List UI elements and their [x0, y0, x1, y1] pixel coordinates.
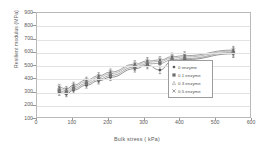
x-tick-mark [108, 118, 109, 121]
y-tick-label: 800 [13, 23, 33, 28]
gridline [37, 79, 250, 80]
y-tick-mark [32, 25, 36, 26]
y-tick-mark [32, 65, 36, 66]
x-tick-mark [215, 118, 216, 121]
data-point-diamond [158, 68, 161, 71]
y-tick-label: 900 [13, 10, 33, 15]
legend-item-0[interactable]: 0 enzyme [171, 63, 210, 71]
y-tick-label: 400 [13, 76, 33, 81]
x-tick-mark [144, 118, 145, 121]
legend-label: 0.5 enzyme [177, 89, 201, 94]
gridline [37, 93, 250, 94]
y-tick-label: 700 [13, 36, 33, 41]
x-tick-mark [36, 118, 37, 121]
y-tick-label: 300 [13, 89, 33, 94]
legend-item-2[interactable]: 0.3 enzyme [171, 79, 210, 87]
plot-area [36, 12, 251, 118]
legend-label: 0 enzyme [177, 65, 197, 70]
y-tick-mark [32, 39, 36, 40]
y-tick-mark [32, 105, 36, 106]
legend-label: 0.3 enzyme [177, 81, 201, 86]
y-tick-label: 500 [13, 63, 33, 68]
gridline [37, 40, 250, 41]
data-point-diamond [172, 65, 175, 68]
legend-item-3[interactable]: 0.5 enzyme [171, 87, 210, 95]
gridline [37, 66, 250, 67]
y-tick-mark [32, 12, 36, 13]
legend-label: 0.1 enzyme [177, 73, 201, 78]
gridline [37, 53, 250, 54]
gridline [37, 26, 250, 27]
y-tick-mark [32, 52, 36, 53]
x-tick-mark [251, 118, 252, 121]
data-point-square [172, 73, 175, 76]
legend-item-1[interactable]: 0.1 enzyme [171, 71, 210, 79]
data-point-triangle [172, 81, 175, 84]
data-point-cross [172, 89, 175, 92]
y-tick-label: 600 [13, 49, 33, 54]
y-tick-mark [32, 78, 36, 79]
x-tick-mark [72, 118, 73, 121]
gridline [37, 106, 250, 107]
x-axis-title: Bulk stress ( kPa) [0, 136, 274, 142]
x-tick-mark [179, 118, 180, 121]
chart-figure: Resilient modulus (MPa) 1002003004005006… [0, 0, 274, 153]
y-tick-mark [32, 92, 36, 93]
legend: 0 enzyme0.1 enzyme0.3 enzyme0.5 enzyme [168, 60, 213, 98]
y-tick-label: 200 [13, 102, 33, 107]
